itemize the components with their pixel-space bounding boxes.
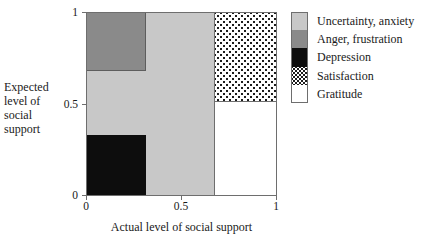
- y-tick-mark-0.5: [82, 104, 86, 105]
- legend-item-satisfaction: Satisfaction: [291, 67, 436, 85]
- y-tick-mark-1: [82, 12, 86, 13]
- region-gratitude: [214, 102, 276, 195]
- y-tick-mark-0: [82, 195, 86, 196]
- chart-legend: Uncertainty, anxiety Anger, frustration …: [291, 12, 436, 103]
- legend-item-anger-frustration: Anger, frustration: [291, 30, 436, 48]
- legend-label-uncertainty-anxiety: Uncertainty, anxiety: [317, 14, 414, 28]
- y-tick-label-1: 1: [48, 7, 78, 19]
- legend-item-gratitude: Gratitude: [291, 85, 436, 103]
- legend-item-uncertainty-anxiety: Uncertainty, anxiety: [291, 12, 436, 30]
- chart-plot-area: [86, 12, 277, 196]
- y-axis-title-line-1: Expected: [4, 80, 76, 94]
- legend-swatch-anger-frustration: [291, 30, 308, 48]
- x-axis-title: Actual level of social support: [86, 221, 277, 233]
- legend-label-depression: Depression: [317, 50, 371, 64]
- legend-swatch-uncertainty-anxiety: [291, 12, 308, 30]
- y-axis-title: Expected level of social support: [4, 80, 76, 136]
- legend-label-gratitude: Gratitude: [317, 87, 362, 101]
- legend-swatch-gratitude: [291, 85, 308, 103]
- region-anger-frustration: [87, 13, 146, 71]
- y-axis-title-line-4: support: [4, 122, 76, 136]
- y-axis-title-line-3: social: [4, 108, 76, 122]
- legend-label-anger-frustration: Anger, frustration: [317, 32, 403, 46]
- legend-swatch-depression: [291, 48, 308, 66]
- x-tick-label-0.5: 0.5: [166, 201, 196, 213]
- y-axis-title-line-2: level of: [4, 94, 76, 108]
- legend-label-satisfaction: Satisfaction: [317, 69, 374, 83]
- region-satisfaction: [214, 13, 276, 102]
- y-tick-label-0: 0: [48, 190, 78, 202]
- x-tick-label-0: 0: [71, 201, 101, 213]
- x-tick-label-1: 1: [261, 201, 291, 213]
- legend-item-depression: Depression: [291, 48, 436, 66]
- region-depression: [87, 135, 146, 195]
- legend-swatch-satisfaction: [291, 67, 308, 85]
